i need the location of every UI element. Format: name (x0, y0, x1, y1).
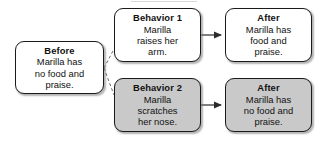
node-after-2-line-2: no food and (244, 105, 294, 116)
node-behavior-2-line-2: scratches (137, 105, 177, 116)
node-behavior-1[interactable]: Behavior 1 Marilla raises her arm. (114, 8, 201, 62)
connector-before-to-behavior-1 (104, 49, 114, 68)
node-behavior-2-title: Behavior 2 (133, 82, 182, 93)
node-after-2-body: Marilla has no food and praise. (244, 94, 294, 128)
node-after-1-title: After (257, 12, 279, 23)
node-before[interactable]: Before Marilla has no food and praise. (15, 41, 104, 94)
node-behavior-1-line-3: arm. (137, 46, 178, 57)
node-before-line-1: Marilla has (35, 56, 85, 67)
node-before-title: Before (44, 45, 74, 56)
node-before-body: Marilla has no food and praise. (35, 56, 85, 90)
node-behavior-1-line-2: raises her (137, 35, 178, 46)
node-behavior-1-title: Behavior 1 (133, 12, 182, 23)
node-after-1-line-2: food and (246, 35, 291, 46)
node-before-line-3: praise. (35, 79, 85, 90)
diagram-canvas: Before Marilla has no food and praise. B… (0, 0, 318, 143)
node-after-1[interactable]: After Marilla has food and praise. (225, 8, 312, 62)
node-behavior-2-line-3: her nose. (137, 116, 177, 127)
node-behavior-1-body: Marilla raises her arm. (137, 24, 178, 58)
node-after-2[interactable]: After Marilla has no food and praise. (225, 78, 312, 132)
node-after-1-line-3: praise. (246, 46, 291, 57)
node-behavior-2-line-1: Marilla (137, 94, 177, 105)
node-behavior-2-body: Marilla scratches her nose. (137, 94, 177, 128)
node-behavior-2[interactable]: Behavior 2 Marilla scratches her nose. (114, 78, 201, 132)
node-behavior-1-line-1: Marilla (137, 24, 178, 35)
node-after-2-title: After (257, 82, 279, 93)
connector-before-to-behavior-2 (104, 68, 114, 95)
node-after-1-body: Marilla has food and praise. (246, 24, 291, 58)
node-after-2-line-3: praise. (244, 116, 294, 127)
node-after-1-line-1: Marilla has (246, 24, 291, 35)
node-after-2-line-1: Marilla has (244, 94, 294, 105)
node-before-line-2: no food and (35, 68, 85, 79)
